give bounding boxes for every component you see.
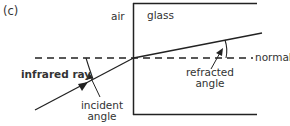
normal-label: normal bbox=[255, 52, 290, 63]
ray-direction-arrow-icon bbox=[78, 82, 88, 91]
glass-label: glass bbox=[147, 10, 174, 21]
refracted-pointer-arrow-icon bbox=[216, 48, 223, 56]
infrared-ray-label: infrared ray bbox=[21, 69, 91, 80]
figure-label: (c) bbox=[3, 6, 18, 17]
refraction-diagram bbox=[0, 0, 290, 126]
refracted-angle-arc bbox=[225, 40, 227, 58]
air-label: air bbox=[111, 11, 125, 22]
incident-angle-pointer bbox=[90, 76, 100, 97]
refracted-angle-label: refracted angle bbox=[180, 67, 240, 89]
incident-angle-label-line2: angle bbox=[79, 111, 125, 122]
incident-angle-label: incident angle bbox=[79, 100, 125, 122]
refracted-ray bbox=[134, 33, 263, 58]
refracted-angle-label-line2: angle bbox=[180, 78, 240, 89]
